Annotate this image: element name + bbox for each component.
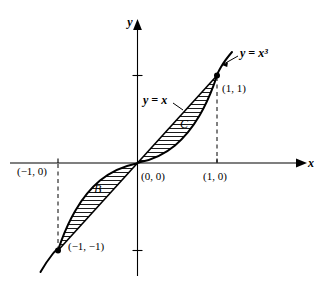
region-label-b: B [94,182,102,196]
point-marker-1-1 [214,73,220,79]
figure-container: x y y = x³ y = x (−1, 0) (0, 0) (1, 0) (… [0,0,325,288]
cubic-curve-label: y = x³ [238,46,268,60]
line-label: y = x [141,93,167,107]
leader-line-linear [173,103,183,110]
y-axis-arrowhead [133,19,142,30]
x-axis-label: x [307,156,314,170]
x-axis-arrowhead [296,159,307,168]
region-label-c: C [180,117,189,131]
point-label-neg1-0: (−1, 0) [17,165,47,178]
point-label-neg1-neg1: (−1, −1) [68,240,105,253]
point-label-1-1: (1, 1) [222,82,246,95]
point-marker-neg1-neg1 [55,248,61,254]
point-label-1-0: (1, 0) [203,170,227,183]
point-label-0-0: (0, 0) [141,170,165,183]
cubic-vs-linear-area-plot: x y y = x³ y = x (−1, 0) (0, 0) (1, 0) (… [0,0,325,288]
y-axis-label: y [125,15,133,29]
